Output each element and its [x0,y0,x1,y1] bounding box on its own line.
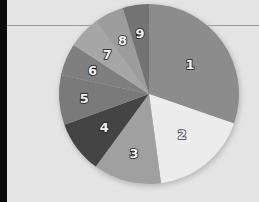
slice-label-6: 6 [88,63,97,78]
slice-label-5: 5 [80,91,89,106]
slice-label-7: 7 [103,47,112,62]
slice-label-3: 3 [129,146,138,161]
slice-label-4: 4 [100,120,109,135]
slice-label-2: 2 [177,127,186,142]
slice-label-1: 1 [186,57,195,72]
slice-label-8: 8 [118,33,127,48]
slice-label-9: 9 [135,26,144,41]
pie-chart: 123456789 [0,0,259,202]
